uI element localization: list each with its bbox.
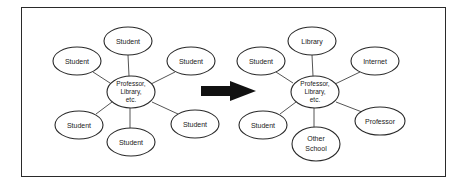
right-arrow-icon bbox=[201, 81, 256, 101]
spoke-top bbox=[312, 55, 313, 76]
left-node-upper-left: Student bbox=[53, 47, 101, 75]
left-node-bottom: Student bbox=[107, 128, 155, 156]
right-node-library: Library bbox=[288, 27, 336, 55]
spoke-top bbox=[128, 55, 129, 76]
right-node-internet: Internet bbox=[351, 47, 399, 75]
right-node-other-school: Other School bbox=[292, 127, 340, 161]
right-node-student-lower: Student bbox=[239, 111, 287, 139]
hub-label-line1: Professor, bbox=[116, 80, 145, 87]
diagram-canvas: Professor, Library, etc. Student Student… bbox=[0, 0, 467, 188]
node-label: Internet bbox=[363, 58, 387, 65]
hub-label-line3: etc. bbox=[126, 96, 137, 103]
spoke-lower-right bbox=[336, 102, 362, 112]
node-label: Student bbox=[251, 122, 275, 129]
spoke-upper-right bbox=[151, 72, 175, 84]
hub-label-line2: Library, bbox=[304, 88, 325, 96]
node-label: Student bbox=[249, 58, 273, 65]
node-label: Student bbox=[183, 121, 207, 128]
diagram-svg: Professor, Library, etc. Student Student… bbox=[0, 0, 467, 188]
node-label-line2: School bbox=[305, 145, 327, 152]
left-diagram: Professor, Library, etc. Student Student… bbox=[53, 27, 219, 156]
node-label: Student bbox=[116, 38, 140, 45]
node-label: Student bbox=[119, 139, 143, 146]
hub-label-line3: etc. bbox=[310, 96, 321, 103]
hub-label-line1: Professor, bbox=[300, 80, 329, 87]
spoke-lower-left bbox=[96, 102, 112, 114]
right-hub-node: Professor, Library, etc. bbox=[291, 76, 339, 108]
left-node-lower-left: Student bbox=[55, 111, 103, 139]
node-label: Student bbox=[67, 122, 91, 129]
left-node-upper-right: Student bbox=[167, 47, 215, 75]
spoke-upper-left bbox=[93, 72, 110, 83]
node-label: Library bbox=[301, 38, 323, 46]
spoke-lower-right bbox=[152, 102, 178, 114]
spoke-upper-left bbox=[276, 72, 293, 83]
left-node-top: Student bbox=[104, 27, 152, 55]
right-node-professor: Professor bbox=[355, 107, 405, 135]
right-diagram: Professor, Library, etc. Library Student… bbox=[237, 27, 405, 161]
node-label: Student bbox=[179, 58, 203, 65]
right-node-student-upper: Student bbox=[237, 47, 285, 75]
left-node-lower-right: Student bbox=[171, 110, 219, 138]
left-hub-node: Professor, Library, etc. bbox=[107, 76, 155, 108]
node-label: Student bbox=[65, 58, 89, 65]
node-label-line1: Other bbox=[307, 135, 325, 142]
spoke-lower-left bbox=[280, 102, 296, 114]
spoke-upper-right bbox=[335, 72, 360, 84]
hub-label-line2: Library, bbox=[120, 88, 141, 96]
node-label: Professor bbox=[365, 118, 396, 125]
